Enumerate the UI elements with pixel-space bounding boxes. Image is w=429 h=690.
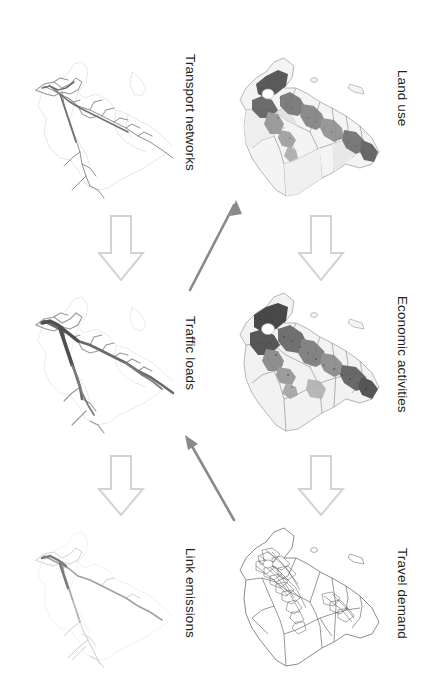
- travel-demand-map: [222, 518, 382, 683]
- hollow-arrow-traffic-to-emissions: [99, 456, 143, 515]
- node-economic-activities: [222, 283, 382, 448]
- node-land-use: [222, 48, 382, 213]
- diagram-canvas: Transport networks: [0, 0, 429, 690]
- economic-activities-map: [222, 283, 382, 448]
- label-transport-networks: Transport networks: [183, 54, 198, 171]
- node-travel-demand: [222, 518, 382, 683]
- label-link-emissions: Link emissions: [183, 548, 198, 638]
- label-economic-activities: Economic activities: [395, 296, 410, 413]
- hollow-arrow-transport-to-traffic: [99, 216, 143, 280]
- hollow-arrow-landuse-to-economic: [299, 216, 343, 280]
- link-emissions-map: [16, 518, 176, 683]
- hollow-arrow-economic-to-travel: [299, 456, 343, 515]
- land-use-map: [222, 48, 382, 213]
- label-traffic-loads: Traffic loads: [183, 316, 198, 390]
- node-traffic-loads: [16, 283, 176, 448]
- solid-arrow-traffic-to-landuse: [190, 200, 242, 290]
- transport-networks-map: [16, 48, 176, 213]
- traffic-loads-map: [16, 283, 176, 448]
- node-transport-networks: [16, 48, 176, 213]
- node-link-emissions: [16, 518, 176, 683]
- label-land-use: Land use: [395, 70, 410, 126]
- label-travel-demand: Travel demand: [395, 548, 410, 639]
